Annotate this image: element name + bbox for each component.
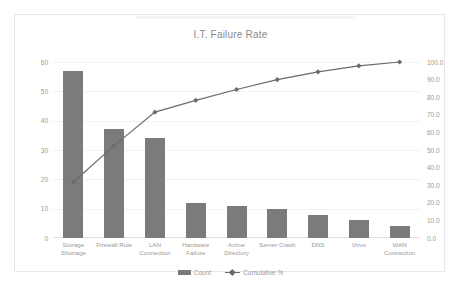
y-axis-left-tick-label: 50 <box>41 88 48 95</box>
category-label: Storage Shortage <box>53 241 94 257</box>
legend-cumulative-label: Cumulative % <box>243 269 283 276</box>
y-axis-right-tick-label: 60.0 <box>427 129 440 136</box>
y-axis-right-tick-label: 80.0 <box>427 94 440 101</box>
y-axis-right-tick-label: 20.0 <box>427 199 440 206</box>
legend-cumulative-line-icon <box>225 270 240 275</box>
y-axis-right-tick-label: 10.0 <box>427 217 440 224</box>
category-label: Server Crash <box>257 241 298 257</box>
y-axis-right-tick-label: 70.0 <box>427 111 440 118</box>
cumulative-line-path <box>73 62 399 182</box>
chart-legend: Count Cumulative % <box>15 269 446 276</box>
y-axis-left-tick-label: 60 <box>41 59 48 66</box>
legend-item-count[interactable]: Count <box>178 269 211 276</box>
y-axis-left-tick-label: 30 <box>41 147 48 154</box>
cumulative-marker-active-directory[interactable] <box>234 87 239 92</box>
x-axis-category-labels: Storage ShortageFirewall RuleLAN Connect… <box>53 241 420 257</box>
category-label: DNS <box>298 241 339 257</box>
category-label: WAN Connection <box>379 241 420 257</box>
cumulative-marker-wan-connection[interactable] <box>397 59 402 64</box>
category-label: LAN Connection <box>135 241 176 257</box>
y-axis-right-tick-label: 90.0 <box>427 76 440 83</box>
y-axis-right-tick-label: 0.0 <box>427 235 436 242</box>
cumulative-marker-server-crash[interactable] <box>275 77 280 82</box>
line-series-cumulative <box>53 62 420 238</box>
y-axis-right-tick-label: 100.0 <box>427 59 443 66</box>
cumulative-marker-hardware-failure[interactable] <box>193 98 198 103</box>
y-axis-right-tick-label: 40.0 <box>427 164 440 171</box>
legend-count-label: Count <box>194 269 211 276</box>
y-axis-left-tick-label: 40 <box>41 117 48 124</box>
category-label: Virus <box>338 241 379 257</box>
y-axis-right-tick-label: 50.0 <box>427 147 440 154</box>
top-edge-artifact <box>135 16 355 19</box>
chart-frame: I.T. Failure Rate 0102030405060 0.010.02… <box>14 14 445 272</box>
plot-area: 0102030405060 0.010.020.030.040.050.060.… <box>53 62 420 238</box>
y-axis-left-tick-label: 20 <box>41 176 48 183</box>
cumulative-marker-virus[interactable] <box>356 63 361 68</box>
category-label: Firewall Rule <box>94 241 135 257</box>
y-axis-left-tick-label: 10 <box>41 205 48 212</box>
category-label: Active Directory <box>216 241 257 257</box>
y-axis-left-tick-label: 0 <box>44 235 48 242</box>
legend-count-swatch-icon <box>178 270 191 275</box>
cumulative-marker-dns[interactable] <box>316 69 321 74</box>
category-label: Hardware Failure <box>175 241 216 257</box>
legend-item-cumulative[interactable]: Cumulative % <box>225 269 283 276</box>
chart-title: I.T. Failure Rate <box>15 29 446 40</box>
y-axis-right-tick-label: 30.0 <box>427 182 440 189</box>
